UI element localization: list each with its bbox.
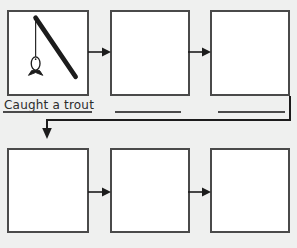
arrow-panel3-to-panel4-icon [40,92,295,142]
fish-tail-icon [29,71,43,76]
fishing-rod-with-fish-drawing [9,12,87,94]
arrow-panel1-to-panel2-icon [88,44,112,60]
panel-2[interactable] [110,10,190,96]
arrow-panel4-to-panel5-icon [88,184,112,200]
panel-1[interactable] [7,10,89,96]
panel-6[interactable] [210,148,290,233]
fish-eye-icon [35,58,37,60]
arrow-panel2-to-panel3-icon [188,44,212,60]
panel-3[interactable] [210,10,290,96]
storyboard-sequence-diagram: Caught a trout [0,0,297,248]
fishing-rod-icon [36,18,76,77]
arrow-panel5-to-panel6-icon [188,184,212,200]
panel-4[interactable] [7,148,89,233]
panel-5[interactable] [110,148,190,233]
